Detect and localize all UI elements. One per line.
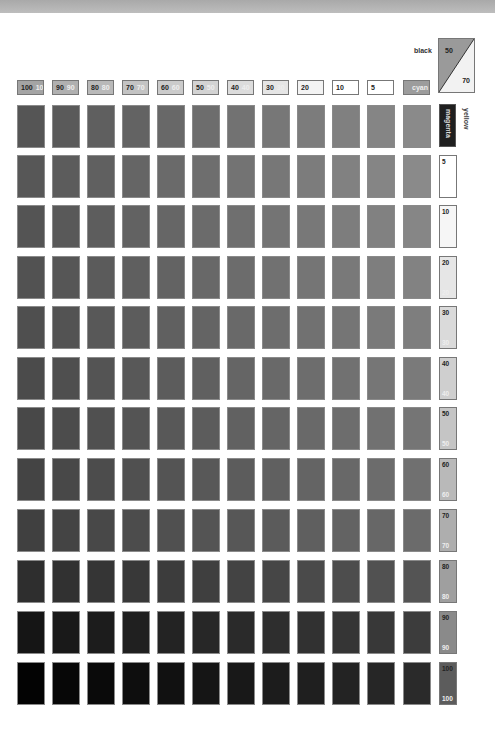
color-swatch bbox=[297, 105, 325, 148]
side-swatch: 4040 bbox=[439, 357, 457, 400]
color-swatch bbox=[297, 560, 325, 603]
color-swatch bbox=[87, 407, 115, 450]
color-swatch bbox=[403, 306, 431, 349]
side-bottom-value: 80 bbox=[442, 593, 449, 600]
top-bar bbox=[0, 0, 495, 13]
side-swatch: 2020 bbox=[439, 256, 457, 299]
color-swatch bbox=[367, 155, 395, 198]
header-swatch: 6060 bbox=[157, 80, 184, 95]
color-swatch bbox=[157, 105, 185, 148]
color-swatch bbox=[227, 306, 255, 349]
color-swatch bbox=[297, 458, 325, 501]
header-swatch: cyan bbox=[403, 80, 430, 95]
color-swatch bbox=[227, 205, 255, 248]
color-swatch bbox=[262, 155, 290, 198]
color-swatch bbox=[122, 407, 150, 450]
color-swatch bbox=[227, 560, 255, 603]
color-swatch bbox=[367, 407, 395, 450]
color-swatch bbox=[332, 458, 360, 501]
magenta-label: magenta bbox=[445, 109, 452, 138]
color-swatch bbox=[122, 560, 150, 603]
side-swatch: 5 bbox=[439, 155, 457, 198]
color-swatch bbox=[17, 407, 45, 450]
color-swatch bbox=[192, 306, 220, 349]
header-secondary-value: 100 bbox=[36, 84, 44, 91]
side-top-value: 40 bbox=[442, 360, 449, 367]
color-swatch bbox=[332, 407, 360, 450]
header-secondary-value: 50 bbox=[207, 84, 215, 91]
color-swatch bbox=[17, 205, 45, 248]
color-swatch bbox=[403, 407, 431, 450]
header-swatch: 5 bbox=[367, 80, 394, 95]
color-swatch bbox=[297, 509, 325, 552]
color-swatch bbox=[17, 611, 45, 654]
header-value: 100 bbox=[21, 84, 33, 91]
color-swatch bbox=[17, 662, 45, 705]
color-swatch bbox=[52, 256, 80, 299]
color-swatch bbox=[403, 155, 431, 198]
color-swatch bbox=[122, 205, 150, 248]
color-swatch bbox=[52, 306, 80, 349]
side-top-value: 10 bbox=[442, 208, 449, 215]
header-secondary-value: cyan bbox=[412, 84, 428, 91]
color-swatch bbox=[52, 357, 80, 400]
color-swatch bbox=[87, 256, 115, 299]
color-swatch bbox=[157, 560, 185, 603]
header-swatch: 8080 bbox=[87, 80, 114, 95]
yellow-label: yellow bbox=[463, 108, 470, 129]
color-swatch bbox=[297, 662, 325, 705]
color-swatch bbox=[403, 256, 431, 299]
color-swatch bbox=[52, 155, 80, 198]
side-bottom-value: 100 bbox=[442, 695, 453, 702]
color-swatch bbox=[52, 205, 80, 248]
color-swatch bbox=[157, 205, 185, 248]
header-swatch: 7070 bbox=[122, 80, 149, 95]
color-swatch bbox=[403, 611, 431, 654]
color-swatch bbox=[192, 407, 220, 450]
color-swatch bbox=[262, 662, 290, 705]
side-swatch: 8080 bbox=[439, 560, 457, 603]
color-swatch bbox=[17, 357, 45, 400]
color-swatch bbox=[122, 357, 150, 400]
color-swatch bbox=[297, 357, 325, 400]
side-bottom-value: 50 bbox=[442, 440, 449, 447]
header-swatch: 5050 bbox=[192, 80, 219, 95]
color-swatch bbox=[87, 662, 115, 705]
color-swatch bbox=[367, 256, 395, 299]
color-swatch bbox=[87, 306, 115, 349]
color-swatch bbox=[87, 509, 115, 552]
side-swatch: 9090 bbox=[439, 611, 457, 654]
color-swatch bbox=[157, 256, 185, 299]
color-swatch bbox=[122, 105, 150, 148]
color-swatch bbox=[192, 155, 220, 198]
color-swatch bbox=[157, 662, 185, 705]
color-swatch bbox=[367, 560, 395, 603]
black-triangle-swatch: 50 70 bbox=[438, 38, 475, 93]
color-swatch bbox=[367, 357, 395, 400]
color-swatch bbox=[262, 458, 290, 501]
color-swatch bbox=[332, 662, 360, 705]
color-swatch bbox=[262, 611, 290, 654]
color-swatch bbox=[367, 662, 395, 705]
color-swatch bbox=[157, 357, 185, 400]
color-swatch bbox=[403, 560, 431, 603]
header-value: 70 bbox=[126, 84, 134, 91]
color-swatch bbox=[192, 662, 220, 705]
side-swatch: 6060 bbox=[439, 458, 457, 501]
side-bottom-value: 90 bbox=[442, 644, 449, 651]
magenta-swatch: magenta bbox=[439, 104, 456, 147]
color-swatch bbox=[17, 306, 45, 349]
side-bottom-value: 70 bbox=[442, 542, 449, 549]
color-swatch bbox=[332, 560, 360, 603]
color-swatch bbox=[367, 509, 395, 552]
color-swatch bbox=[297, 205, 325, 248]
side-top-value: 20 bbox=[442, 259, 449, 266]
side-bottom-value: 40 bbox=[442, 390, 449, 397]
color-swatch bbox=[157, 458, 185, 501]
color-swatch bbox=[87, 105, 115, 148]
color-swatch bbox=[332, 205, 360, 248]
color-swatch bbox=[52, 611, 80, 654]
color-swatch bbox=[17, 256, 45, 299]
color-swatch bbox=[122, 256, 150, 299]
color-swatch bbox=[52, 560, 80, 603]
